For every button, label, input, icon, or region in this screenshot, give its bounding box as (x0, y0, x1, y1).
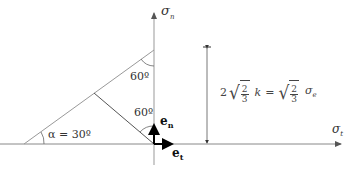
en-label: en (160, 114, 173, 130)
dimension-formula: 2 √ 2 3 k = √ 2 3 σe (220, 80, 317, 104)
equals-sign: = (265, 86, 274, 99)
top-angle-arc (141, 59, 154, 66)
alpha-label: α = 30º (48, 128, 91, 141)
sigma-t-label: σt (332, 122, 343, 138)
sigma-n-label: σn (161, 3, 174, 21)
lhs-coef: 2 (220, 86, 227, 99)
rhs-var: σe (305, 84, 317, 99)
bottom-angle-arc (140, 126, 154, 132)
bottom-angle-label: 60º (134, 106, 153, 119)
lhs-var: k (255, 86, 262, 99)
radical-icon: √ (229, 83, 240, 102)
lhs-sqrt: √ 2 3 (229, 80, 250, 104)
et-label: et (172, 146, 183, 162)
top-angle-label: 60º (130, 70, 149, 83)
rhs-sqrt: √ 2 3 (278, 80, 299, 104)
alpha-arc (41, 132, 44, 144)
radical-icon: √ (278, 83, 289, 102)
